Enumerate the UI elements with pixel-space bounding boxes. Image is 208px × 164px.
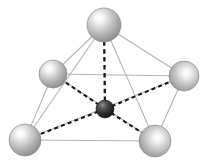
sphere-apex-body (87, 8, 121, 42)
sphere-apex (87, 8, 121, 42)
sphere-front-right-body (139, 125, 171, 157)
molecular-structure-figure (0, 0, 208, 164)
sphere-front-left (9, 124, 41, 156)
structure-canvas (0, 0, 208, 164)
sphere-front-left-body (9, 124, 41, 156)
sphere-center-body (96, 100, 114, 118)
sphere-rear-right-body (169, 61, 199, 91)
bond-center-apex (104, 40, 105, 109)
sphere-center (96, 100, 114, 118)
sphere-rear-left (39, 60, 67, 88)
sphere-rear-right (169, 61, 199, 91)
sphere-front-right (139, 125, 171, 157)
sphere-rear-left-body (39, 60, 67, 88)
